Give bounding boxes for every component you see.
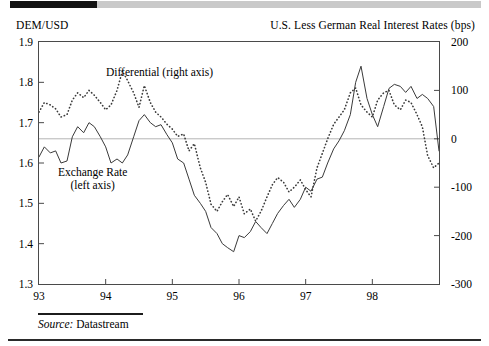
right-axis-tick-label: 100 (451, 84, 468, 96)
series-label-exchange-rate-line2: (left axis) (58, 179, 127, 192)
header-rule-black (10, 1, 97, 8)
header-rule-band (0, 0, 489, 10)
left-axis-tick-label: 1.3 (19, 278, 33, 290)
series-label-differential: Differential (right axis) (106, 66, 213, 79)
left-axis-tick-label: 1.7 (19, 117, 33, 129)
x-axis-tick-label: 94 (100, 290, 112, 302)
right-axis-tick-label: 0 (451, 133, 457, 145)
right-axis-tick-label: -100 (451, 181, 472, 193)
series-label-exchange-rate: Exchange Rate (left axis) (58, 166, 127, 192)
x-axis-tick-label: 93 (33, 290, 45, 302)
footer-rule-thick (38, 313, 143, 315)
chart-canvas (39, 42, 439, 284)
left-axis-tick-label: 1.4 (19, 238, 33, 250)
chart-plot-area (38, 41, 440, 285)
footer-rule-bottom (8, 339, 481, 341)
source-line: Source: Datastream (38, 318, 129, 330)
source-value: Datastream (76, 318, 128, 330)
left-axis-title: DEM/USD (16, 19, 68, 31)
x-axis-tick-label: 98 (367, 290, 379, 302)
right-axis-tick-label: -200 (451, 230, 472, 242)
left-axis-tick-label: 1.6 (19, 157, 33, 169)
x-axis-tick-label: 97 (300, 290, 312, 302)
left-axis-tick-label: 1.9 (19, 36, 33, 48)
x-axis-tick-label: 95 (167, 290, 179, 302)
right-axis-title: U.S. Less German Real Interest Rates (bp… (270, 19, 475, 31)
left-axis-tick-label: 1.8 (19, 76, 33, 88)
chart-series-group (39, 66, 439, 252)
series-line-exchange-rate (39, 66, 439, 252)
series-line-differential (39, 71, 439, 221)
header-rule-gray (97, 1, 481, 8)
source-label: Source: (38, 318, 73, 330)
left-axis-tick-label: 1.5 (19, 197, 33, 209)
right-axis-tick-label: 200 (451, 36, 468, 48)
series-label-exchange-rate-line1: Exchange Rate (58, 166, 127, 179)
x-axis-tick-label: 96 (233, 290, 245, 302)
right-axis-tick-label: -300 (451, 278, 472, 290)
